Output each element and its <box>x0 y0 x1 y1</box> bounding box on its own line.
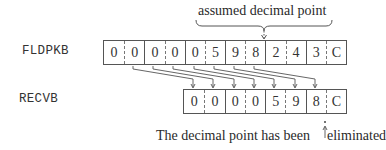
arrow-icon <box>133 66 193 87</box>
arrow-icon <box>194 66 254 87</box>
shift-arrows <box>133 66 315 87</box>
arrow-icon <box>214 66 274 87</box>
caption-after: eliminated <box>327 128 386 144</box>
caption-before: The decimal point has been <box>156 128 310 144</box>
arrow-icon <box>173 66 234 87</box>
brace-icon <box>196 20 332 31</box>
arrow-icon <box>153 66 213 87</box>
arrow-icon <box>234 66 295 87</box>
eliminated-decimal-dot-icon <box>324 121 326 123</box>
arrow-icon <box>254 66 315 87</box>
